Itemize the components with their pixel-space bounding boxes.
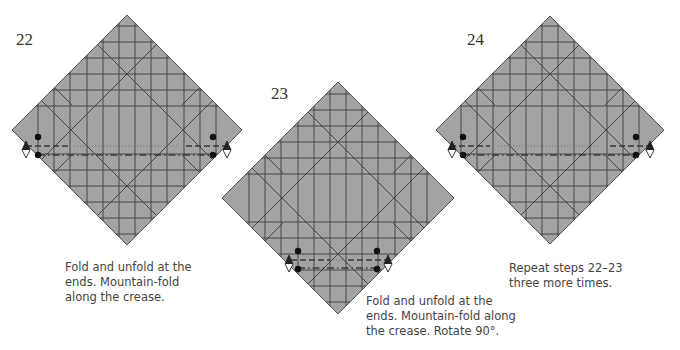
step-24-diagram — [430, 10, 670, 250]
step-number-23: 23 — [271, 84, 288, 104]
step-24-caption: Repeat steps 22–23 three more times. — [509, 261, 623, 291]
step-22-caption: Fold and unfold at the ends. Mountain-fo… — [65, 260, 192, 305]
paper-square — [436, 16, 664, 244]
step-23-caption: Fold and unfold at the ends. Mountain-fo… — [366, 294, 516, 339]
step-23-diagram — [218, 78, 458, 318]
paper-square — [222, 82, 454, 314]
step-22-diagram — [7, 10, 247, 250]
step-number-22: 22 — [16, 30, 33, 50]
paper-square — [12, 15, 242, 245]
step-number-24: 24 — [467, 30, 484, 50]
